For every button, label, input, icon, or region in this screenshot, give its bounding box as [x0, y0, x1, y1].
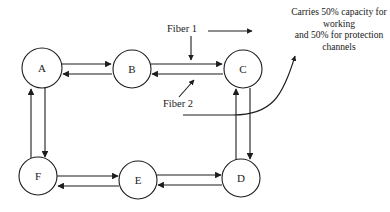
network-diagram: A B C D E F Fibe	[0, 0, 390, 212]
node-c: C	[224, 50, 262, 88]
node-b: B	[113, 50, 151, 88]
link-b-c	[151, 64, 223, 74]
fiber-2-label: Fiber 2	[163, 98, 193, 110]
node-f: F	[19, 157, 57, 195]
node-b-label: B	[128, 63, 135, 75]
fiber-1-label: Fiber 1	[167, 23, 197, 35]
node-f-label: F	[35, 170, 41, 182]
node-a: A	[22, 48, 62, 88]
link-f-a	[31, 88, 45, 158]
node-e: E	[119, 161, 157, 199]
link-a-b	[62, 64, 112, 74]
node-c-label: C	[239, 63, 246, 75]
annotation-line-3: and 50% for protection	[288, 29, 390, 41]
node-d-label: D	[237, 172, 245, 184]
node-e-label: E	[135, 174, 142, 186]
annotation-line-4: channels	[288, 41, 390, 53]
node-d: D	[222, 159, 260, 197]
node-a-label: A	[38, 62, 46, 74]
link-d-e	[157, 175, 222, 185]
capacity-annotation: Carries 50% capacity for working and 50%…	[288, 6, 390, 53]
annotation-line-2: working	[288, 18, 390, 30]
annotation-line-1: Carries 50% capacity for	[288, 6, 390, 18]
link-c-d	[236, 88, 250, 160]
fiber-2-pointer	[179, 80, 194, 97]
link-e-f	[57, 176, 119, 186]
